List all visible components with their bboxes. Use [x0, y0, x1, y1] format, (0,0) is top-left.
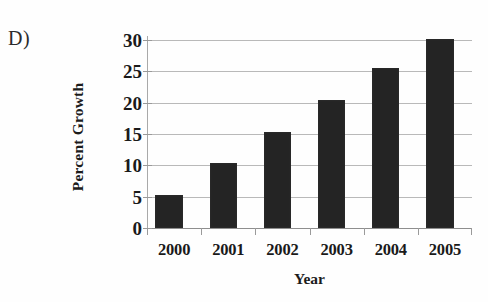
panel-letter-label: D) — [8, 27, 30, 50]
y-tick-label: 30 — [104, 31, 142, 50]
x-tick-mark — [471, 228, 472, 235]
x-tick-mark — [147, 228, 148, 235]
x-axis-tick-labels: 200020012002200320042005 — [147, 240, 472, 264]
y-tick-label: 5 — [104, 187, 142, 206]
bar — [426, 39, 453, 228]
bar — [210, 163, 237, 228]
x-tick-label: 2004 — [375, 240, 407, 260]
x-tick-label: 2001 — [212, 240, 244, 260]
x-tick-mark — [255, 228, 256, 235]
x-tick-label: 2000 — [158, 240, 190, 260]
y-tick-label: 10 — [104, 156, 142, 175]
y-tick-label: 20 — [104, 93, 142, 112]
x-tick-mark — [364, 228, 365, 235]
x-tick-label: 2003 — [320, 240, 352, 260]
plot-area — [147, 40, 472, 228]
bar — [155, 195, 182, 228]
y-tick-label: 25 — [104, 62, 142, 81]
x-tick-mark — [310, 228, 311, 235]
x-tick-mark — [201, 228, 202, 235]
y-axis-title: Percent Growth — [69, 57, 87, 217]
bar — [264, 132, 291, 229]
bar-series — [147, 40, 472, 228]
y-tick-label: 15 — [104, 125, 142, 144]
x-tick-label: 2005 — [429, 240, 461, 260]
y-tick-label: 0 — [104, 219, 142, 238]
chart-figure: D) Percent Growth 051015202530 200020012… — [0, 0, 488, 302]
y-axis-tick-labels: 051015202530 — [104, 40, 142, 228]
bar — [318, 100, 345, 228]
x-axis-tick-marks — [147, 228, 472, 238]
x-tick-label: 2002 — [266, 240, 298, 260]
bar — [372, 68, 399, 228]
x-axis-title: Year — [147, 270, 472, 288]
x-tick-mark — [418, 228, 419, 235]
